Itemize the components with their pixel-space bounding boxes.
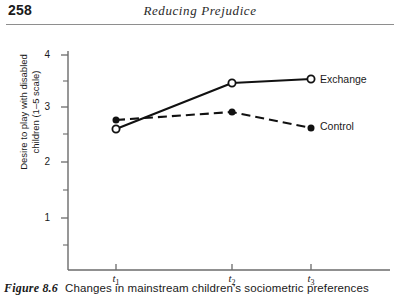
figure-caption-number: Figure 8.6	[4, 281, 58, 295]
data-point-control-t1	[113, 117, 120, 124]
figure-caption: Figure 8.6Changes in mainstream children…	[4, 281, 398, 295]
y-axis-minor-ticks	[63, 81, 68, 245]
data-point-control-t3	[308, 125, 315, 132]
data-point-control-t2	[229, 109, 236, 116]
figure-8-6: Desire to play with disabled children (1…	[0, 26, 400, 276]
running-title: Reducing Prejudice	[0, 3, 400, 19]
figure-caption-text: Changes in mainstream children's sociome…	[65, 282, 369, 294]
y-axis-major-ticks	[61, 55, 68, 218]
header-divider	[6, 24, 394, 25]
series-exchange	[112, 75, 314, 132]
page-header: 258 Reducing Prejudice	[0, 0, 400, 26]
data-point-exchange-t3	[307, 75, 314, 82]
x-axis-ticks	[116, 264, 311, 270]
series-control	[113, 109, 315, 132]
data-point-exchange-t2	[228, 79, 235, 86]
data-point-exchange-t1	[112, 125, 119, 132]
plot-area	[0, 26, 400, 276]
